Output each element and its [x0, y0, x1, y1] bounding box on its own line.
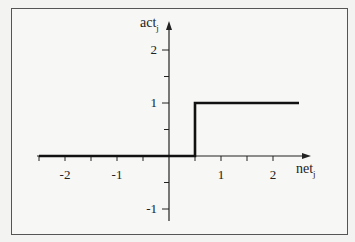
x-tick-label: 1 [218, 167, 225, 182]
ticks [39, 50, 273, 209]
x-tick-label: 2 [270, 167, 277, 182]
step-function-chart: -2-11221-1 actj netj [0, 0, 355, 242]
x-tick-label: -1 [112, 167, 123, 182]
x-tick-label: -2 [60, 167, 71, 182]
axes [37, 21, 311, 221]
y-tick-label: 1 [151, 95, 158, 110]
y-axis-arrow-icon [166, 21, 172, 30]
y-axis-label: actj [140, 15, 159, 33]
y-tick-label: 2 [151, 42, 158, 57]
x-axis-arrow-icon [302, 153, 311, 159]
x-axis-label: netj [296, 161, 316, 179]
y-tick-label: -1 [146, 201, 157, 216]
